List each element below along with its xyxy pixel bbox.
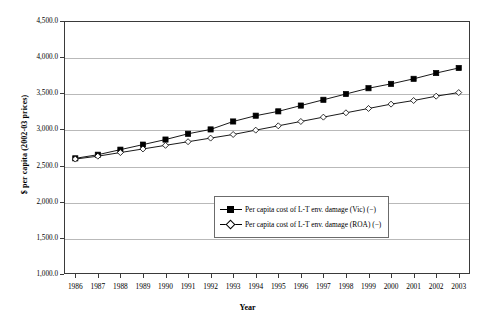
data-point-marker-open-diamond-icon xyxy=(433,93,439,99)
x-axis-tick-mark xyxy=(391,274,392,278)
x-axis-tick-mark xyxy=(166,274,167,278)
data-point-marker-filled-square-icon xyxy=(321,97,326,102)
x-axis-tick-mark xyxy=(188,274,189,278)
legend-item-roa[interactable]: Per capita cost of L-T env. damage (ROA)… xyxy=(220,217,381,232)
y-axis-tick-label: 3,000.0 xyxy=(0,125,58,133)
data-point-marker-filled-square-icon xyxy=(343,91,348,96)
data-point-marker-filled-square-icon xyxy=(366,86,371,91)
y-axis-tick-label: 2,500.0 xyxy=(0,162,58,170)
x-axis-tick-mark xyxy=(75,274,76,278)
x-axis-tick-mark xyxy=(98,274,99,278)
legend-key-open-diamond-icon xyxy=(220,219,242,230)
data-point-marker-open-diamond-icon xyxy=(275,123,281,129)
data-point-marker-filled-square-icon xyxy=(231,119,236,124)
y-axis-tick-label: 1,000.0 xyxy=(0,270,58,278)
y-axis-tick-label: 4,000.0 xyxy=(0,53,58,61)
series-line xyxy=(75,68,458,158)
data-point-marker-filled-square-icon xyxy=(253,113,258,118)
data-point-marker-open-diamond-icon xyxy=(411,98,417,104)
x-axis-tick-mark xyxy=(278,274,279,278)
x-axis-tick-mark xyxy=(256,274,257,278)
series-vic xyxy=(73,65,462,161)
x-axis-tick-mark xyxy=(436,274,437,278)
y-axis-title: $ per capita (2002-03 prices) xyxy=(20,55,29,235)
data-point-marker-open-diamond-icon xyxy=(253,127,259,133)
x-axis-tick-mark xyxy=(459,274,460,278)
data-point-marker-filled-square-icon xyxy=(434,70,439,75)
x-axis-tick-mark xyxy=(414,274,415,278)
y-axis-tick-label: 1,500.0 xyxy=(0,234,58,242)
x-axis-tick-mark xyxy=(143,274,144,278)
legend-label-roa: Per capita cost of L-T env. damage (ROA)… xyxy=(245,220,381,229)
data-point-marker-open-diamond-icon xyxy=(388,101,394,107)
x-axis-tick-mark xyxy=(369,274,370,278)
data-point-marker-filled-square-icon xyxy=(411,76,416,81)
data-point-marker-filled-square-icon xyxy=(163,137,168,142)
y-axis-tick-label: 4,500.0 xyxy=(0,17,58,25)
legend-item-vic[interactable]: Per capita cost of L-T env. damage (Vic)… xyxy=(220,202,381,217)
x-axis-tick-mark xyxy=(346,274,347,278)
data-point-marker-open-diamond-icon xyxy=(366,105,372,111)
data-point-marker-filled-square-icon xyxy=(185,131,190,136)
data-point-marker-open-diamond-icon xyxy=(185,139,191,145)
legend-key-filled-square-icon xyxy=(220,204,242,215)
x-axis-tick-mark xyxy=(233,274,234,278)
y-axis-tick-label: 3,500.0 xyxy=(0,89,58,97)
chart-legend: Per capita cost of L-T env. damage (Vic)… xyxy=(214,196,389,238)
data-point-marker-filled-square-icon xyxy=(276,109,281,114)
y-axis-tick-label: 2,000.0 xyxy=(0,198,58,206)
x-axis-title: Year xyxy=(0,303,495,312)
chart-figure: $ per capita (2002-03 prices) 4,500.04,0… xyxy=(0,0,495,332)
y-axis-tick-mark xyxy=(60,274,64,275)
x-axis-tick-label: 2003 xyxy=(439,282,479,291)
data-point-marker-filled-square-icon xyxy=(208,127,213,132)
x-axis-tick-mark xyxy=(323,274,324,278)
data-point-marker-open-diamond-icon xyxy=(208,135,214,141)
x-axis-tick-mark xyxy=(211,274,212,278)
x-axis-tick-mark xyxy=(301,274,302,278)
data-point-marker-open-diamond-icon xyxy=(298,118,304,124)
legend-label-vic: Per capita cost of L-T env. damage (Vic)… xyxy=(245,205,376,214)
series-roa xyxy=(72,90,461,163)
data-point-marker-open-diamond-icon xyxy=(320,114,326,120)
series-line xyxy=(75,93,458,160)
data-point-marker-filled-square-icon xyxy=(456,65,461,70)
data-point-marker-filled-square-icon xyxy=(298,103,303,108)
x-axis-tick-mark xyxy=(120,274,121,278)
data-point-marker-filled-square-icon xyxy=(388,81,393,86)
data-point-marker-open-diamond-icon xyxy=(163,142,169,148)
data-point-marker-open-diamond-icon xyxy=(230,131,236,137)
data-point-marker-open-diamond-icon xyxy=(456,90,462,96)
data-point-marker-open-diamond-icon xyxy=(343,110,349,116)
